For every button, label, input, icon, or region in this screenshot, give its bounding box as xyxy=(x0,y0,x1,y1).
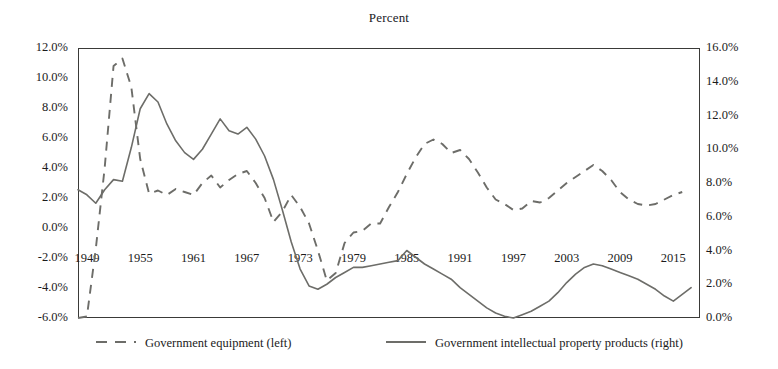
legend: Government equipment (left) Government i… xyxy=(0,336,778,358)
y-left-tick-2: 8.0% xyxy=(8,101,68,114)
y-left-tick-1: 10.0% xyxy=(8,71,68,84)
y-right-tick-3: 10.0% xyxy=(706,142,768,155)
y-left-tick-4: 4.0% xyxy=(8,161,68,174)
x-tick-2003: 2003 xyxy=(542,252,592,265)
legend-label-equipment: Government equipment (left) xyxy=(145,336,291,350)
y-right-tick-2: 12.0% xyxy=(706,109,768,122)
chart-container: Percent 12.0%10.0%8.0%6.0%4.0%2.0%0.0%-2… xyxy=(0,0,778,369)
plot-area xyxy=(78,48,700,318)
y-right-tick-1: 14.0% xyxy=(706,75,768,88)
x-tick-1973: 1973 xyxy=(275,252,325,265)
legend-swatch-solid-icon xyxy=(386,341,426,343)
legend-item-equipment: Government equipment (left) xyxy=(96,336,291,351)
y-right-tick-4: 8.0% xyxy=(706,176,768,189)
chart-title-text: Percent xyxy=(369,10,409,26)
y-left-tick-7: -2.0% xyxy=(8,251,68,264)
legend-swatch-dashed-icon xyxy=(96,341,136,343)
y-right-tick-8: 0.0% xyxy=(706,311,768,324)
x-tick-1997: 1997 xyxy=(488,252,538,265)
chart-title: Percent xyxy=(0,10,778,26)
y-left-tick-5: 2.0% xyxy=(8,191,68,204)
y-right-tick-5: 6.0% xyxy=(706,210,768,223)
x-tick-2015: 2015 xyxy=(648,252,698,265)
x-tick-1985: 1985 xyxy=(382,252,432,265)
y-right-tick-6: 4.0% xyxy=(706,244,768,257)
x-tick-1961: 1961 xyxy=(169,252,219,265)
y-left-tick-9: -6.0% xyxy=(8,311,68,324)
y-right-tick-0: 16.0% xyxy=(706,41,768,54)
x-tick-1955: 1955 xyxy=(115,252,165,265)
y-left-tick-0: 12.0% xyxy=(8,41,68,54)
x-tick-2009: 2009 xyxy=(595,252,645,265)
y-left-tick-3: 6.0% xyxy=(8,131,68,144)
legend-item-ipp: Government intellectual property product… xyxy=(386,336,683,351)
y-right-tick-7: 2.0% xyxy=(706,277,768,290)
x-tick-1949: 1949 xyxy=(62,252,112,265)
x-tick-1979: 1979 xyxy=(328,252,378,265)
y-left-tick-8: -4.0% xyxy=(8,281,68,294)
legend-label-ipp: Government intellectual property product… xyxy=(435,336,683,350)
x-tick-1991: 1991 xyxy=(435,252,485,265)
y-left-tick-6: 0.0% xyxy=(8,221,68,234)
x-tick-1967: 1967 xyxy=(222,252,272,265)
